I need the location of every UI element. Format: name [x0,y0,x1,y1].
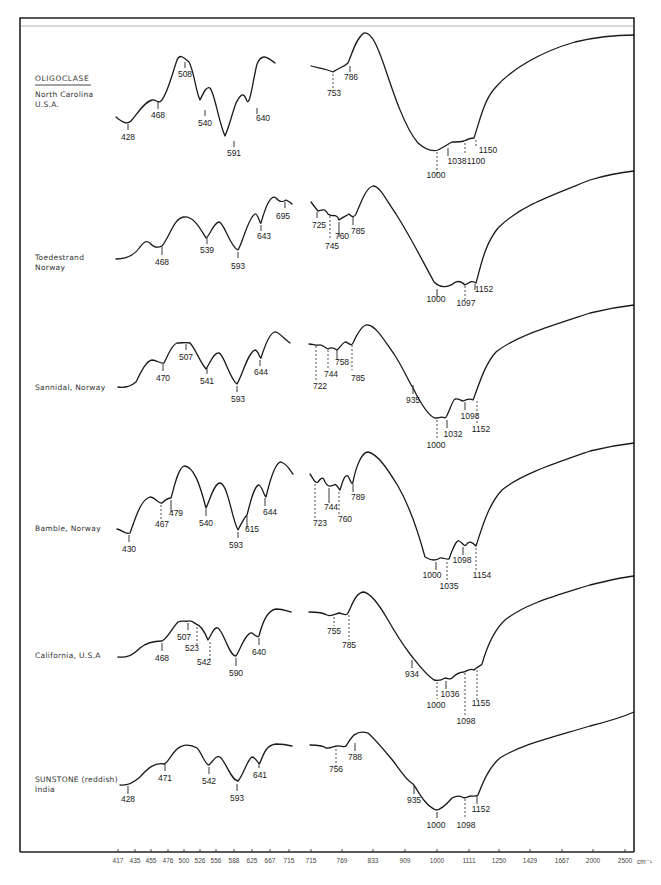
spectrum-3: Sannidal, Norway470507541593644722744758… [35,305,634,450]
band-label: 785 [342,640,356,650]
x-axis: 4174354554765005265565886256677157157698… [113,849,633,864]
band-label: 430 [122,544,136,554]
band-label: 760 [338,514,352,524]
x-axis-tick-label: 500 [179,857,190,864]
band-label: 725 [312,220,326,230]
band-label: 1032 [444,429,463,439]
band-label: 593 [229,540,243,550]
x-axis-tick-label: 833 [368,857,379,864]
sample-label: North Carolina [35,90,93,99]
x-axis-tick-label: 2000 [586,857,601,864]
band-label: 758 [335,357,349,367]
x-axis-tick-label: 625 [247,857,258,864]
band-label: 1036 [441,689,460,699]
band-label: 468 [155,257,169,267]
x-axis-tick-label: 1250 [492,857,507,864]
band-label: 591 [227,148,241,158]
band-label: 644 [263,507,277,517]
mineral-title: OLIGOCLASE [35,74,89,83]
band-label: 1152 [472,424,491,434]
band-label: 785 [351,226,365,236]
band-label: 1152 [472,804,491,814]
band-label: 755 [327,626,341,636]
sample-label-line2: Norway [35,263,66,272]
band-label: 1000 [427,820,446,830]
band-label: 640 [252,647,266,657]
x-axis-tick-label: 667 [265,857,276,864]
x-axis-tick-label: 526 [195,857,206,864]
band-label: 753 [327,88,341,98]
spectrum-2: ToedestrandNorway46853959364369572574576… [34,171,634,308]
x-axis-tick-label: 417 [113,857,124,864]
sample-label: California, U.S.A [35,651,101,660]
sample-label: Sannidal, Norway [35,383,106,392]
band-label: 785 [351,373,365,383]
band-label: 1150 [479,145,498,155]
x-axis-tick-label: 909 [400,857,411,864]
band-label: 934 [405,669,419,679]
band-label: 1152 [475,284,494,294]
band-label: 786 [344,72,358,82]
band-label: 1035 [440,581,459,591]
band-label: 756 [329,764,343,774]
figure-frame [20,18,634,852]
band-label: 468 [151,110,165,120]
sample-label: Toedestrand [34,253,84,262]
band-label: 479 [169,508,183,518]
band-label: 722 [313,381,327,391]
band-label: 428 [121,794,135,804]
band-label: 1098 [457,716,476,726]
band-label: 1000 [423,570,442,580]
band-label: 789 [351,492,365,502]
spectrum-curve-high-range [311,33,634,151]
x-axis-tick-label: 1667 [555,857,570,864]
band-label: 428 [121,132,135,142]
band-label: 508 [178,69,192,79]
x-axis-tick-label: 2500 [618,857,633,864]
spectrum-5: California, U.S.A46850752354259064075578… [35,576,634,726]
band-label: 540 [199,518,213,528]
band-label: 745 [325,241,339,251]
band-label: 1098 [453,555,472,565]
x-axis-tick-label: 556 [211,857,222,864]
band-label: 1038 [448,156,467,166]
x-axis-tick-label: 435 [130,857,141,864]
x-axis-tick-label: 715 [284,857,295,864]
band-label: 788 [348,752,362,762]
spectrum-curve-low-range [116,56,275,136]
band-label: 1098 [457,820,476,830]
x-axis-tick-label: 715 [306,857,317,864]
sample-label-line2: U.S.A. [35,100,59,109]
band-label: 1000 [427,700,446,710]
band-label: 542 [197,657,211,667]
band-label: 935 [407,795,421,805]
x-axis-tick-label: 455 [146,857,157,864]
x-axis-tick-label: 1000 [430,857,445,864]
band-label: 593 [231,261,245,271]
band-label: 744 [324,369,338,379]
x-axis-tick-label: 1111 [462,857,475,864]
x-axis-tick-label: 1429 [523,857,538,864]
band-label: 542 [202,776,216,786]
band-label: 590 [229,668,243,678]
band-label: 723 [313,518,327,528]
band-label: 470 [156,373,170,383]
band-label: 468 [155,653,169,663]
spectrum-4: Bamble, Norway43046747954059361564472374… [35,443,634,591]
band-label: 541 [200,376,214,386]
band-label: 1000 [427,170,446,180]
x-axis-tick-label: 588 [229,857,240,864]
spectrum-6: SUNSTONE (reddish)India42847154259364175… [35,712,634,830]
band-label: 471 [158,773,172,783]
band-label: 593 [231,394,245,404]
band-label: 593 [230,793,244,803]
sample-label: SUNSTONE (reddish) [35,775,118,784]
x-axis-tick-label: 476 [163,857,174,864]
band-label: 695 [276,211,290,221]
band-label: 643 [257,231,271,241]
spectrum-curve-high-range [309,305,634,418]
band-label: 523 [185,643,199,653]
band-label: 744 [324,502,338,512]
band-label: 1000 [427,294,446,304]
spectra-layer: North CarolinaU.S.A.42846850854059164075… [34,33,634,830]
